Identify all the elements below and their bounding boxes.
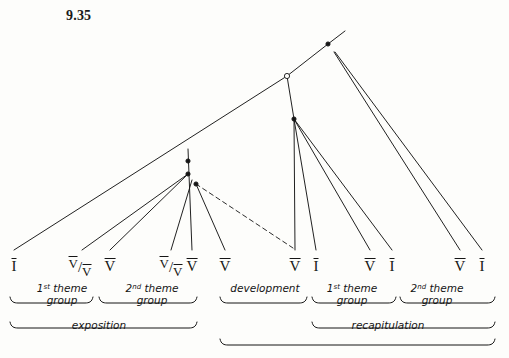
tree-node-filled (186, 172, 190, 176)
section-bracket (220, 297, 307, 303)
theme-group-label-line1: 2nd theme (411, 282, 464, 294)
theme-group-label-line2: group (327, 294, 377, 306)
tree-branch (294, 119, 392, 250)
tree-branch (82, 174, 188, 250)
harmony-symbol: V/V (69, 256, 92, 278)
theme-group-label: 1st themegroup (37, 282, 87, 307)
section-bracket (220, 339, 495, 345)
harmony-symbol: I (314, 258, 319, 275)
node-layer (186, 42, 330, 186)
harmony-symbol: V (455, 258, 466, 275)
theme-group-label-line1: development (230, 282, 299, 294)
tree-branch (328, 31, 345, 44)
theme-group-label-line1: 1st theme (327, 282, 377, 294)
theme-group-label-line2: group (126, 294, 179, 306)
theme-group-label: development (230, 282, 299, 294)
harmony-denominator: V (82, 264, 91, 279)
tree-node-filled (186, 159, 190, 163)
ordinal-suffix: nd (132, 283, 141, 291)
tree-branch (171, 180, 192, 250)
theme-group-label-line2: group (37, 294, 87, 306)
harmony-roman-numeral: V (220, 258, 231, 275)
theme-group-label-line1: 1st theme (37, 282, 87, 294)
harmony-symbol: V (220, 258, 231, 275)
branch-layer (14, 31, 482, 250)
tree-branch (188, 149, 192, 250)
theme-group-label: 2nd themegroup (126, 282, 179, 307)
tree-node-filled (326, 42, 330, 46)
theme-group-label: 2nd themegroup (411, 282, 464, 307)
harmony-roman-numeral: I (314, 258, 319, 275)
harmony-symbol: V (187, 258, 198, 275)
tree-node-filled (292, 117, 296, 121)
harmony-roman-numeral: I (12, 258, 17, 275)
harmony-symbol: V (365, 258, 376, 275)
harmony-numerator: V (160, 256, 169, 271)
harmony-symbol: I (390, 258, 395, 275)
harmony-roman-numeral: V (455, 258, 466, 275)
harmony-roman-numeral: I (480, 258, 485, 275)
harmony-roman-numeral: I (390, 258, 395, 275)
tree-branch (287, 44, 328, 76)
section-label: exposition (72, 319, 126, 331)
harmony-symbol: V (105, 258, 116, 275)
theme-group-label-line2: group (411, 294, 464, 306)
figure-container: 9.35 IV/VVV/VVVVIVIVI 1st themegroup2nd … (0, 0, 509, 358)
tree-branch (110, 174, 188, 250)
tree-node-filled (194, 182, 198, 186)
ordinal-suffix: st (334, 283, 340, 291)
theme-group-label: 1st themegroup (327, 282, 377, 307)
harmony-symbol: V/V (160, 256, 183, 278)
harmony-numerator: V (69, 256, 78, 271)
tree-branch (14, 76, 287, 250)
ordinal-suffix: nd (417, 283, 426, 291)
harmony-roman-numeral: V (290, 258, 301, 275)
harmony-roman-numeral: V (187, 258, 198, 275)
harmony-symbol: V (290, 258, 301, 275)
harmony-roman-numeral: V (105, 258, 116, 275)
theme-group-label-line1: 2nd theme (126, 282, 179, 294)
harmony-symbol: I (480, 258, 485, 275)
harmony-denominator: V (173, 264, 182, 279)
ordinal-suffix: st (44, 283, 50, 291)
tree-branch (335, 52, 482, 250)
section-label: recapitulation (352, 319, 425, 331)
harmony-roman-numeral: V (365, 258, 376, 275)
tree-node-open (284, 73, 289, 78)
tree-branch (294, 119, 295, 250)
harmony-symbol: I (12, 258, 17, 275)
tree-branch (287, 76, 294, 119)
